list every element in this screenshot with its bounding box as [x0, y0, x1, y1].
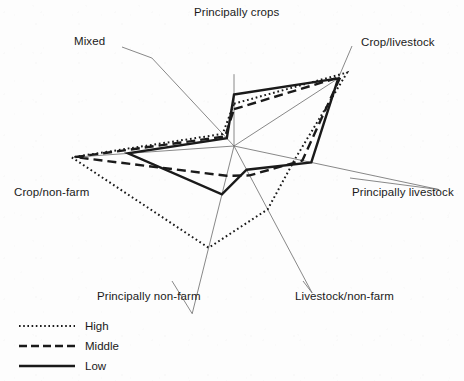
axis-spoke-livestock-non-farm: [234, 146, 312, 293]
legend-item-low: Low: [18, 356, 119, 376]
series-polygon-middle: [75, 77, 340, 176]
series-polygon-low: [128, 78, 338, 194]
axis-spoke-crop-non-farm: [77, 146, 234, 157]
legend-item-middle: Middle: [18, 336, 119, 356]
legend-label-middle: Middle: [85, 340, 119, 352]
chart-legend: High Middle Low: [18, 316, 119, 376]
legend-item-high: High: [18, 316, 119, 336]
axis-label-crop-livestock: Crop/livestock: [361, 36, 435, 48]
leader-line: [122, 47, 152, 58]
axis-label-mixed: Mixed: [74, 35, 105, 47]
legend-label-low: Low: [85, 360, 106, 372]
chart-page: Principally cropsMixedCrop/livestockPrin…: [0, 0, 464, 381]
axis-label-principally-livestock: Principally livestock: [352, 186, 454, 198]
axis-label-principally-crops: Principally crops: [194, 6, 279, 18]
legend-swatch-low: [18, 360, 76, 372]
series-polygon-high: [72, 73, 348, 248]
legend-swatch-middle: [18, 340, 76, 352]
axis-label-principally-non-farm: Principally non-farm: [97, 290, 201, 302]
axis-label-livestock-non-farm: Livestock/non-farm: [295, 290, 394, 302]
legend-label-high: High: [85, 320, 109, 332]
axis-spoke-mixed: [152, 58, 234, 146]
series-polygons: [72, 73, 348, 248]
legend-swatch-high: [18, 320, 76, 332]
leader-line: [338, 46, 352, 78]
axis-label-crop-non-farm: Crop/non-farm: [14, 186, 89, 198]
